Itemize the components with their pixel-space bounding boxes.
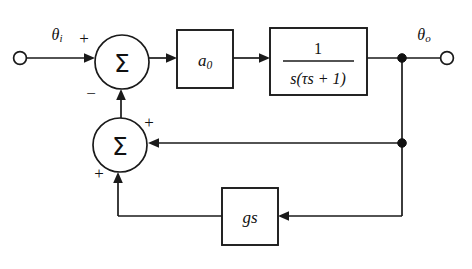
gain-block-subscript: 0: [206, 59, 212, 71]
arrowhead-into-summer-top: [84, 53, 95, 63]
gain-block-symbol: a: [198, 51, 207, 70]
arrowhead-into-summer-lower-right: [148, 138, 159, 148]
block-diagram-canvas: Σ Σ + − + + θi θo a0 1 s(τs + 1) gs: [0, 0, 472, 269]
plant-numerator: 1: [314, 40, 322, 57]
sign-summer-top-negative: −: [86, 84, 96, 103]
input-terminal[interactable]: [14, 52, 27, 65]
output-theta-subscript: o: [425, 32, 431, 44]
block-diagram-svg: Σ Σ + − + + θi θo a0 1 s(τs + 1) gs: [0, 0, 472, 269]
feedback-block-label: gs: [242, 208, 258, 227]
sign-summer-lower-bottom-positive: +: [94, 164, 104, 183]
junction-output-node: [398, 54, 407, 63]
sign-input-positive: +: [79, 29, 89, 48]
output-theta-glyph: θ: [417, 26, 425, 43]
arrowhead-into-plant: [259, 53, 270, 63]
sign-summer-lower-right-positive: +: [144, 113, 154, 132]
input-signal-label: θi: [52, 26, 63, 45]
summer-top-sigma: Σ: [114, 49, 130, 78]
summer-lower-sigma: Σ: [112, 132, 128, 161]
output-signal-label: θo: [417, 26, 431, 45]
input-theta-subscript: i: [59, 32, 62, 44]
arrowhead-into-gain: [166, 53, 177, 63]
input-theta-glyph: θ: [52, 26, 60, 43]
output-terminal[interactable]: [441, 52, 454, 65]
arrowhead-into-summer-lower-bottom: [113, 172, 123, 183]
arrowhead-into-feedback-block: [278, 211, 289, 221]
junction-feedback-node: [398, 139, 407, 148]
arrowhead-into-summer-top-bottom: [116, 89, 126, 100]
plant-denominator: s(τs + 1): [290, 70, 346, 88]
